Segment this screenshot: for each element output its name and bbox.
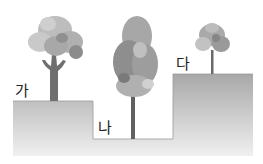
terrain-diagram: 가 나 다 bbox=[0, 0, 263, 164]
label-b: 나 bbox=[98, 121, 112, 136]
label-a: 가 bbox=[15, 84, 29, 99]
terrain-svg bbox=[0, 0, 263, 164]
tree-b-icon bbox=[113, 16, 158, 139]
tree-c-icon bbox=[195, 23, 230, 74]
label-c: 다 bbox=[176, 57, 190, 72]
tree-a-icon bbox=[28, 16, 83, 101]
